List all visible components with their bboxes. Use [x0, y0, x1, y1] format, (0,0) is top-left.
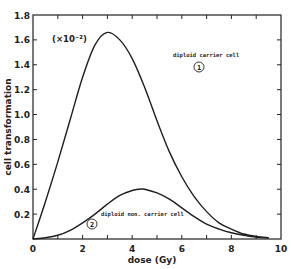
plot-frame	[33, 15, 281, 239]
series-1-marker: 1	[194, 62, 204, 72]
data-curves	[33, 32, 269, 239]
x-tick-label: 6	[179, 244, 185, 254]
series-1-line	[33, 32, 269, 239]
y-tick-label: 1.2	[14, 85, 30, 95]
series-1-marker-label: 1	[197, 64, 201, 72]
x-tick-label: 4	[129, 244, 135, 254]
plot-border	[33, 15, 281, 239]
x-axis-title: dose (Gy)	[128, 255, 177, 265]
series-2-marker-label: 2	[90, 221, 94, 229]
y-tick-label: 1.8	[14, 11, 30, 21]
x-tick-label: 0	[30, 244, 36, 254]
x-tick-label: 2	[79, 244, 85, 254]
y-tick-label: 0.4	[14, 185, 30, 195]
axis-ticks	[33, 15, 281, 239]
y-tick-label: 0.2	[14, 210, 30, 220]
cell-transformation-chart: 02468100.20.40.60.81.01.21.41.61.8 (×10⁻…	[0, 0, 291, 269]
y-tick-label: 1.0	[14, 110, 30, 120]
tick-labels: 02468100.20.40.60.81.01.21.41.61.8	[14, 11, 287, 255]
y-tick-label: 0.8	[14, 135, 30, 145]
y-tick-label: 0.6	[14, 160, 30, 170]
x-tick-label: 8	[228, 244, 234, 254]
series-2-marker: 2	[87, 219, 97, 229]
x-tick-label: 10	[275, 244, 288, 254]
y-tick-label: 1.6	[14, 35, 30, 45]
series-2-label: diploid non. carrier cell	[101, 211, 184, 218]
y-axis-title: cell transformation	[3, 78, 13, 175]
y-tick-label: 1.4	[14, 60, 30, 70]
y-scale-note: (×10⁻²)	[52, 34, 87, 44]
series-1-label: diploid carrier cell	[173, 52, 239, 59]
